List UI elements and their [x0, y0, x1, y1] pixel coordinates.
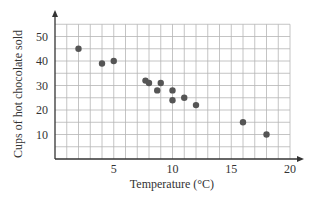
data-point — [99, 60, 105, 66]
data-point — [146, 80, 152, 86]
y-tick-label: 20 — [36, 103, 48, 117]
x-tick-label: 5 — [111, 162, 117, 176]
x-axis-label: Temperature (°C) — [130, 177, 214, 191]
y-axis-arrow-icon — [52, 10, 58, 17]
data-point — [240, 119, 246, 125]
y-axis-label: Cups of hot chocolate sold — [11, 30, 25, 158]
data-point — [169, 87, 175, 93]
y-tick-label: 40 — [36, 54, 48, 68]
data-point — [75, 46, 81, 52]
data-point — [181, 95, 187, 101]
y-tick-label: 30 — [36, 79, 48, 93]
x-tick-labels: 5101520 — [111, 162, 296, 176]
x-tick-label: 10 — [167, 162, 179, 176]
x-tick-label: 15 — [225, 162, 237, 176]
data-point — [154, 87, 160, 93]
data-point — [111, 58, 117, 64]
y-tick-label: 10 — [36, 128, 48, 142]
y-tick-label: 50 — [36, 30, 48, 44]
x-axis-arrow-icon — [297, 156, 304, 162]
scatter-chart: 5101520 1020304050 Temperature (°C) Cups… — [0, 0, 318, 200]
data-point — [193, 102, 199, 108]
data-point — [158, 80, 164, 86]
data-point — [263, 131, 269, 137]
x-tick-label: 20 — [284, 162, 296, 176]
y-tick-labels: 1020304050 — [36, 30, 48, 142]
data-point — [169, 97, 175, 103]
